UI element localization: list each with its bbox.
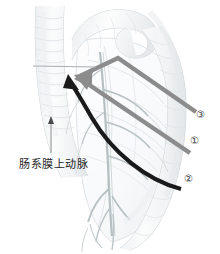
medical-illustration-figure: 肠系膜上动脉 ③ ① ② [0, 0, 220, 254]
approach-arrow-1 [74, 72, 190, 153]
approach-arrows-overlay [0, 0, 220, 254]
artery-label: 肠系膜上动脉 [19, 155, 88, 171]
marker-label-3: ③ [196, 110, 205, 120]
marker-label-2: ② [184, 174, 193, 184]
artery-pointer-line [48, 116, 54, 153]
marker-label-1: ① [190, 136, 199, 146]
reference-line [33, 66, 96, 67]
